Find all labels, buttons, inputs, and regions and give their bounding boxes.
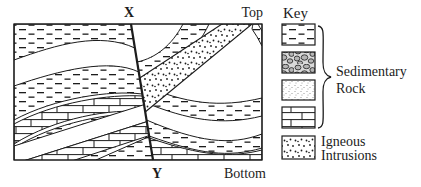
fault-label-y: Y xyxy=(152,166,162,181)
fault-label-x: X xyxy=(124,5,134,20)
sedimentary-brace xyxy=(318,26,331,128)
swatch-conglomerate-pebbles xyxy=(282,52,315,73)
sedimentary-label-line2: Rock xyxy=(336,81,366,96)
east-fault-block xyxy=(137,24,262,160)
shale-band-top-left xyxy=(14,24,135,60)
cross-section: X Top Y Bottom xyxy=(14,5,266,181)
bottom-label: Bottom xyxy=(224,166,266,181)
key-title: Key xyxy=(283,5,308,21)
key-panel: Key Sedimentary Rock Igneous Intrusions xyxy=(282,5,407,163)
top-label: Top xyxy=(241,5,263,20)
shale-band-corner-arc xyxy=(252,24,262,46)
igneous-label-line2: Intrusions xyxy=(321,148,377,163)
swatch-sandstone-stipple xyxy=(282,80,315,100)
west-fault-block xyxy=(14,24,160,180)
igneous-label-line1: Igneous xyxy=(321,134,365,149)
geology-figure: X Top Y Bottom Key Sedimentary Rock Igne… xyxy=(0,0,421,187)
swatch-limestone-bricks xyxy=(282,107,315,128)
swatch-shale-dashes xyxy=(282,24,315,45)
sedimentary-label-line1: Sedimentary xyxy=(336,64,407,79)
swatch-igneous-dots xyxy=(282,136,315,159)
geology-figure-page: X Top Y Bottom Key Sedimentary Rock Igne… xyxy=(0,0,421,187)
